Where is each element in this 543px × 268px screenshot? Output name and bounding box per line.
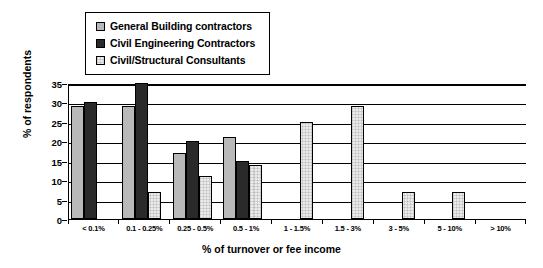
y-axis-tick-label: 5 bbox=[40, 195, 62, 206]
y-axis-tick-mark bbox=[62, 181, 67, 182]
y-axis-tick-label: 20 bbox=[40, 137, 62, 148]
bar-group bbox=[221, 85, 272, 219]
x-axis-tick-label: 0.1 - 0.25% bbox=[119, 224, 170, 233]
y-axis-tick-label: 15 bbox=[40, 156, 62, 167]
bar-group bbox=[120, 85, 171, 219]
legend-label-series-3: Civil/Structural Consultants bbox=[110, 55, 245, 66]
y-axis-tick-label: 0 bbox=[40, 215, 62, 226]
bar-series-2 bbox=[135, 83, 148, 219]
y-axis-tick-mark bbox=[62, 142, 67, 143]
bar-series-3 bbox=[148, 192, 161, 219]
x-axis-tick-label: 0.5 - 1% bbox=[221, 224, 272, 233]
x-axis-title: % of turnover or fee income bbox=[0, 243, 543, 255]
bar-series-1 bbox=[71, 106, 84, 219]
x-axis-tick-label: 0.25 - 0.5% bbox=[170, 224, 221, 233]
x-axis-tick-label: 5 - 10% bbox=[424, 224, 475, 233]
y-axis-tick-mark bbox=[62, 123, 67, 124]
x-axis-tick-labels: < 0.1%0.1 - 0.25%0.25 - 0.5%0.5 - 1%1 - … bbox=[68, 224, 526, 233]
bar-series-1 bbox=[122, 106, 135, 219]
legend-swatch-icon-series-1 bbox=[96, 22, 105, 31]
y-axis-title: % of respondents bbox=[21, 29, 33, 159]
legend-label-series-1: General Building contractors bbox=[110, 21, 252, 32]
legend-label-series-2: Civil Engineering Contractors bbox=[110, 38, 255, 49]
y-axis-tick-label: 10 bbox=[40, 176, 62, 187]
y-axis-tick-mark bbox=[62, 201, 67, 202]
bar-series-2 bbox=[186, 141, 199, 219]
bar-series-2 bbox=[84, 102, 97, 219]
bar-series-3 bbox=[199, 176, 212, 219]
bar-series-3 bbox=[249, 165, 262, 219]
bar-series-2 bbox=[236, 161, 249, 219]
legend-swatch-icon-series-3 bbox=[96, 56, 105, 65]
x-axis-tick-label: > 10% bbox=[475, 224, 526, 233]
bar-series-3 bbox=[300, 122, 313, 219]
legend-item-civil-engineering-contractors: Civil Engineering Contractors bbox=[96, 35, 255, 52]
y-axis-tick-label: 30 bbox=[40, 98, 62, 109]
bar-series-3 bbox=[402, 192, 415, 219]
x-axis-tick-label: < 0.1% bbox=[68, 224, 119, 233]
bar-series-1 bbox=[173, 153, 186, 219]
bar-group bbox=[69, 85, 120, 219]
y-axis-tick-mark bbox=[62, 84, 67, 85]
legend-item-general-building-contractors: General Building contractors bbox=[96, 18, 255, 35]
y-axis-tick-labels: 05101520253035 bbox=[40, 84, 62, 220]
bar-group bbox=[374, 85, 425, 219]
bar-group bbox=[475, 85, 526, 219]
y-axis-tick-mark bbox=[62, 220, 67, 221]
bars-layer bbox=[69, 85, 526, 219]
y-axis-tick-label: 25 bbox=[40, 117, 62, 128]
bar-group bbox=[171, 85, 222, 219]
plot-area bbox=[68, 84, 526, 220]
bar-series-1 bbox=[223, 137, 236, 219]
y-axis-tick-mark bbox=[62, 162, 67, 163]
x-axis-tick-label: 3 - 5% bbox=[373, 224, 424, 233]
bar-group bbox=[272, 85, 323, 219]
bar-group bbox=[323, 85, 374, 219]
bar-series-3 bbox=[452, 192, 465, 219]
bar-series-3 bbox=[351, 106, 364, 219]
x-axis-tick-label: 1 - 1.5% bbox=[272, 224, 323, 233]
legend-item-civil-structural-consultants: Civil/Structural Consultants bbox=[96, 52, 255, 69]
x-axis-tick-label: 1.5 - 3% bbox=[322, 224, 373, 233]
bar-chart: General Building contractors Civil Engin… bbox=[0, 0, 543, 268]
chart-legend: General Building contractors Civil Engin… bbox=[85, 12, 270, 75]
y-axis-tick-mark bbox=[62, 103, 67, 104]
y-axis-tick-label: 35 bbox=[40, 79, 62, 90]
legend-swatch-icon-series-2 bbox=[96, 39, 105, 48]
bar-group bbox=[424, 85, 475, 219]
